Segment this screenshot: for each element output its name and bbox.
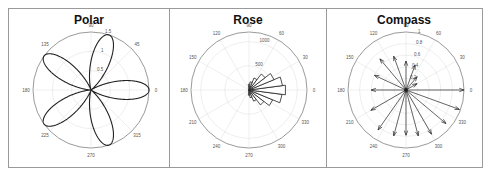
angle-tick-label: 150 [346, 55, 354, 60]
angle-tick-label: 210 [189, 120, 197, 125]
angle-tick-label: 30 [460, 55, 466, 60]
angle-tick-label: 300 [435, 144, 443, 149]
angle-tick-label: 180 [337, 88, 345, 93]
angle-tick-label: 225 [41, 133, 49, 138]
angle-tick-label: 180 [180, 88, 188, 93]
angle-tick-label: 210 [346, 120, 354, 125]
angle-tick-label: 0 [470, 88, 473, 93]
polar-plot: 045901351802252703150.511.5 [9, 9, 169, 166]
compass-panel: Compass 03060901201501802102402703003300… [327, 9, 481, 166]
compass-arrow [406, 90, 432, 134]
angle-tick-label: 90 [246, 23, 252, 28]
compass-plot: 03060901201501802102402703003300.20.40.6… [327, 9, 481, 166]
angle-tick-label: 120 [370, 31, 378, 36]
angle-tick-label: 270 [245, 153, 253, 158]
angle-tick-label: 0 [313, 88, 316, 93]
compass-arrow [378, 90, 406, 130]
angle-tick-label: 90 [403, 23, 409, 28]
angle-tick-label: 315 [133, 133, 141, 138]
angle-tick-label: 60 [436, 31, 442, 36]
radial-tick-label: 1 [418, 29, 421, 34]
angle-tick-label: 180 [22, 88, 30, 93]
polar-panel: Polar 045901351802252703150.511.5 [9, 9, 169, 166]
radial-tick-label: 0.8 [416, 40, 423, 45]
angle-tick-label: 90 [88, 23, 94, 28]
angle-tick-label: 300 [278, 144, 286, 149]
radial-tick-label: 500 [255, 62, 263, 67]
rose-panel: Rose 03060901201501802102402703003305001… [170, 9, 326, 166]
angle-tick-label: 60 [279, 31, 285, 36]
angle-tick-label: 330 [459, 120, 467, 125]
radial-tick-label: 0.6 [414, 52, 421, 57]
compass-arrow [380, 59, 406, 90]
angle-tick-label: 0 [155, 88, 158, 93]
radial-tick-label: 1 [101, 48, 104, 53]
angle-tick-label: 45 [134, 42, 140, 47]
angle-tick-label: 240 [370, 144, 378, 149]
angle-tick-label: 270 [87, 153, 95, 158]
angle-tick-label: 330 [302, 120, 310, 125]
angle-tick-label: 150 [189, 55, 197, 60]
angle-tick-label: 240 [213, 144, 221, 149]
angle-tick-label: 135 [41, 42, 49, 47]
rose-plot: 03060901201501802102402703003305001000 [170, 9, 326, 166]
radial-tick-label: 1.5 [105, 29, 112, 34]
radial-tick-label: 0.5 [97, 67, 104, 72]
angle-tick-label: 120 [213, 31, 221, 36]
radial-tick-label: 1000 [259, 38, 270, 43]
angle-tick-label: 30 [303, 55, 309, 60]
angle-tick-label: 270 [402, 153, 410, 158]
